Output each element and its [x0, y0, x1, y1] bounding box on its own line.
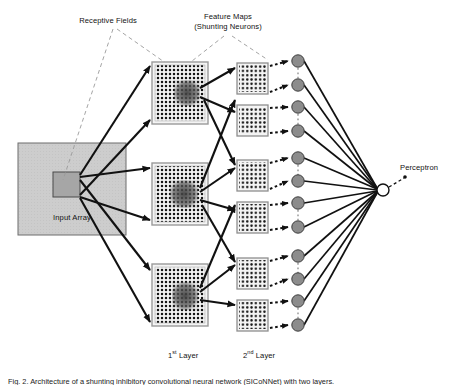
figure-canvas: Receptive Fields Feature Maps (Shunting …	[0, 0, 455, 385]
shunting-neuron-11	[292, 295, 304, 307]
network-diagram	[0, 0, 455, 385]
shunting-neuron-3	[292, 101, 304, 113]
feature-maps-label-line1: Feature Maps	[204, 12, 252, 21]
dashed-l2m4-n7	[270, 203, 288, 205]
perceptron-leader-line	[389, 178, 404, 187]
layer1-map-1	[152, 62, 208, 124]
dashed-l2m1-n2	[270, 85, 288, 92]
dashed-l2m4-n8	[270, 227, 288, 230]
leader-to-layer1-map	[117, 29, 170, 66]
layer2-to-neuron-connections	[270, 61, 288, 328]
feature-maps-label-line2: (Shunting Neurons)	[194, 22, 262, 31]
layer2-map-6	[237, 300, 268, 331]
dashed-l2m5-n9	[270, 256, 288, 261]
layer2-map-4	[237, 202, 268, 233]
perceptron-circle	[377, 184, 389, 196]
connection-n6-perceptron	[304, 181, 377, 190]
shunting-neurons	[292, 55, 304, 331]
layer2-label: 2nd Layer	[243, 348, 275, 360]
perceptron-label: Perceptron	[400, 163, 438, 172]
shunting-neuron-12	[292, 319, 304, 331]
connection-n4-perceptron	[304, 131, 377, 189]
dashed-l2m6-n12	[270, 325, 288, 328]
shunting-neuron-6	[292, 175, 304, 187]
input-array-label: Input Array	[53, 213, 91, 222]
layer2-label-suffix: Layer	[254, 351, 276, 360]
layer1-map-3	[152, 264, 208, 326]
connection-n2-perceptron	[304, 85, 377, 188]
dashed-l2m5-n10	[270, 279, 288, 286]
neurons-to-perceptron-connections	[304, 61, 377, 325]
layer1-label: 1st Layer	[168, 348, 198, 360]
receptive-field-patch	[53, 172, 80, 197]
dashed-l2m2-n4	[270, 131, 288, 133]
connection-n10-perceptron	[304, 192, 377, 279]
perceptron-leader-dot	[403, 175, 407, 179]
connection-l1m2-l2m5	[202, 205, 235, 262]
connection-n3-perceptron	[304, 107, 377, 189]
layer2-map-3	[237, 160, 268, 191]
shunting-neuron-8	[292, 221, 304, 233]
dashed-l2m3-n6	[270, 181, 288, 189]
layer2-map-5	[237, 258, 268, 289]
perceptron-node	[377, 175, 407, 196]
shunting-neuron-2	[292, 79, 304, 91]
receptive-fields-label: Receptive Fields	[79, 16, 137, 25]
shunting-neuron-9	[292, 250, 304, 262]
leader-to-layer2	[232, 36, 268, 60]
dashed-l2m6-n11	[270, 301, 288, 303]
layer2-map-1	[237, 63, 268, 94]
shunting-neuron-7	[292, 197, 304, 209]
connection-n12-perceptron	[304, 193, 377, 325]
shunting-neuron-5	[292, 152, 304, 164]
figure-caption: Fig. 2. Architecture of a shunting inhib…	[8, 377, 448, 385]
shunting-neuron-4	[292, 125, 304, 137]
layer1-label-suffix: Layer	[177, 351, 199, 360]
layer2-feature-maps	[237, 63, 268, 331]
layer2-map-2	[237, 105, 268, 136]
shunting-neuron-10	[292, 273, 304, 285]
dashed-l2m2-n3	[270, 107, 288, 108]
connection-n1-perceptron	[304, 61, 377, 188]
dashed-l2m3-n5	[270, 158, 288, 163]
dashed-l2m1-n1	[270, 61, 288, 66]
shunting-neuron-1	[292, 55, 304, 67]
layer1-map-2	[152, 163, 208, 225]
